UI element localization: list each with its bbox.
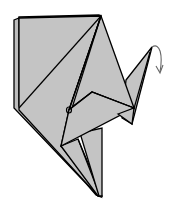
origami-diagram xyxy=(0,0,179,214)
fold-arrow xyxy=(152,46,163,73)
arrow-head-icon xyxy=(156,65,163,73)
